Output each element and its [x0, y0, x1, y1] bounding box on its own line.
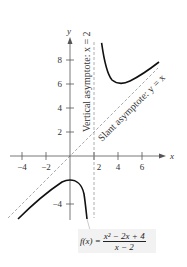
formula-fraction: x² − 2x + 4 x − 2: [103, 231, 146, 252]
y-tick-label: 6: [58, 79, 63, 89]
vertical-asymptote-label: Vertical asymptote: x = 2: [81, 31, 92, 132]
x-tick-label: 4: [116, 162, 121, 172]
x-axis-label: x: [169, 151, 174, 161]
x-tick-label: −2: [41, 162, 51, 172]
x-tick-label: 6: [140, 162, 145, 172]
y-tick-label: −4: [52, 199, 62, 209]
y-axis-arrow-icon: [68, 37, 73, 44]
y-axis-label: y: [66, 26, 71, 36]
x-tick-label: −4: [17, 162, 27, 172]
y-tick-label: 8: [58, 55, 63, 65]
function-formula: f(x) = x² − 2x + 4 x − 2: [80, 230, 146, 252]
formula-lhs: f(x) =: [80, 236, 101, 246]
formula-denominator: x − 2: [115, 242, 134, 252]
y-tick-label: 2: [58, 127, 63, 137]
y-tick-label: 4: [58, 103, 63, 113]
chart-canvas: −4 −2 2 4 6 8 6 4 2 −4 x y Vertical asym…: [0, 0, 187, 267]
slant-asymptote-label: Slant asymptote: y = x: [96, 72, 167, 143]
x-axis-arrow-icon: [159, 154, 166, 159]
formula-numerator: x² − 2x + 4: [103, 231, 146, 242]
curve-right-branch: [102, 43, 159, 84]
x-tick-label: 2: [97, 162, 102, 172]
